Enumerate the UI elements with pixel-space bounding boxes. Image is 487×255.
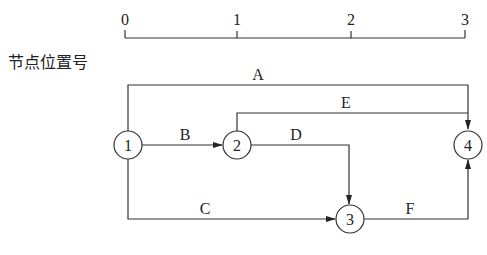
activity-c: C — [128, 159, 335, 219]
activity-d: D — [251, 126, 349, 204]
activity-d-label: D — [290, 126, 302, 143]
node-2-label: 2 — [233, 137, 241, 154]
activity-f: F — [364, 160, 468, 219]
node-2: 2 — [223, 131, 251, 159]
axis-tick-1: 1 — [233, 11, 241, 28]
activity-b: B — [142, 126, 222, 145]
axis-tick-0: 0 — [121, 11, 129, 28]
network-diagram: 0 1 2 3 节点位置号 A E B D C F 1 2 — [0, 0, 487, 255]
node-1-label: 1 — [124, 137, 132, 154]
activity-f-label: F — [406, 200, 415, 217]
axis-tick-3: 3 — [461, 11, 469, 28]
node-1: 1 — [114, 131, 142, 159]
node-3: 3 — [336, 205, 364, 233]
activity-b-label: B — [180, 126, 191, 143]
activity-a-label: A — [252, 66, 264, 83]
position-axis: 0 1 2 3 — [121, 11, 469, 38]
node-3-label: 3 — [346, 211, 354, 228]
node-4: 4 — [454, 131, 482, 159]
activity-a: A — [128, 66, 468, 131]
axis-tick-2: 2 — [347, 11, 355, 28]
activity-c-label: C — [200, 200, 211, 217]
activity-e: E — [237, 94, 468, 131]
activity-e-label: E — [341, 94, 351, 111]
axis-label: 节点位置号 — [8, 53, 88, 72]
node-4-label: 4 — [464, 137, 472, 154]
